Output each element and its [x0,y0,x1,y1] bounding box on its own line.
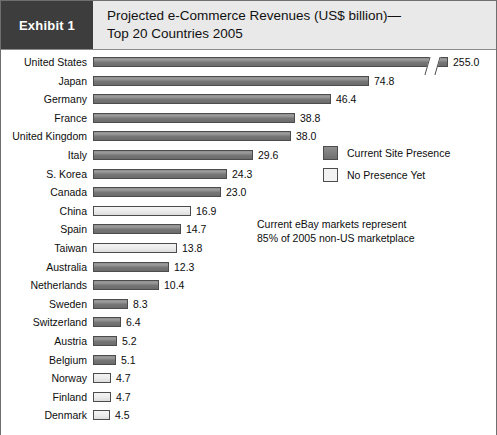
exhibit-title-line1: Projected e-Commerce Revenues (US$ billi… [107,8,401,23]
category-label: United States [1,54,87,70]
bar-value-label: 46.4 [336,91,356,107]
bar-value-label: 38.8 [300,110,320,126]
bar-light [93,392,111,402]
legend-swatch-icon [323,168,338,182]
category-label: Switzerland [1,314,87,330]
bar-dark [93,299,128,309]
bar-row: France38.8 [1,110,496,126]
bar-dark [93,262,169,272]
legend-label: No Presence Yet [347,169,425,181]
bar-value-label: 13.8 [182,240,202,256]
category-label: Belgium [1,352,87,368]
bar-dark [93,131,291,141]
category-label: France [1,110,87,126]
bar-row: Netherlands10.4 [1,277,496,293]
bar-value-label: 4.7 [116,370,131,386]
bar-value-label: 5.2 [122,333,137,349]
bar-light [93,243,177,253]
bar-row: Denmark4.5 [1,407,496,423]
bar-dark [93,224,181,234]
category-label: Austria [1,333,87,349]
bar-dark [93,94,331,104]
bar-row: Finland4.7 [1,389,496,405]
bar-value-label: 10.4 [164,277,184,293]
bar-value-label: 255.0 [453,54,479,70]
legend-label: Current Site Presence [347,147,450,159]
chart-legend: Current Site PresenceNo Presence Yet [323,142,450,186]
category-label: Germany [1,91,87,107]
bar-dark [93,355,116,365]
bar-dark [93,317,121,327]
bar-value-label: 12.3 [174,259,194,275]
bar-row: Switzerland6.4 [1,314,496,330]
bar-value-label: 8.3 [133,296,148,312]
bar-light [93,206,191,216]
category-label: Italy [1,147,87,163]
bar-value-label: 38.0 [296,128,316,144]
bar-value-label: 74.8 [374,73,394,89]
bar-dark [93,76,369,86]
category-label: Sweden [1,296,87,312]
category-label: Taiwan [1,240,87,256]
bar-dark [93,57,448,67]
exhibit-container: Exhibit 1 Projected e-Commerce Revenues … [0,0,497,435]
bar-light [93,373,111,383]
category-label: Australia [1,259,87,275]
bar-dark [93,187,221,197]
legend-item: Current Site Presence [323,142,450,164]
exhibit-header: Exhibit 1 Projected e-Commerce Revenues … [1,1,496,50]
bar-row: China16.9 [1,203,496,219]
category-label: Finland [1,389,87,405]
category-label: Canada [1,184,87,200]
bar-value-label: 6.4 [126,314,141,330]
category-label: Norway [1,370,87,386]
bar-row: Sweden8.3 [1,296,496,312]
bar-row: Norway4.7 [1,370,496,386]
exhibit-number-tag: Exhibit 1 [1,1,93,49]
annotation-line-1: Current eBay markets represent [257,217,415,231]
legend-swatch-icon [323,146,338,160]
category-label: Denmark [1,407,87,423]
bar-value-label: 4.5 [115,407,130,423]
bar-chart-plot-area: United States255.0Japan74.8Germany46.4Fr… [1,50,496,435]
bar-row: Canada23.0 [1,184,496,200]
exhibit-title-line2: Top 20 Countries 2005 [107,26,243,41]
bar-row: Austria5.2 [1,333,496,349]
bar-value-label: 4.7 [116,389,131,405]
bar-dark [93,113,295,123]
bar-row: Australia12.3 [1,259,496,275]
category-label: China [1,203,87,219]
category-label: Japan [1,73,87,89]
bar-row: Spain14.7 [1,221,496,237]
category-label: Spain [1,221,87,237]
bar-dark [93,169,227,179]
bar-row: Belgium5.1 [1,352,496,368]
bar-light [93,410,110,420]
bar-value-label: 5.1 [121,352,136,368]
legend-item: No Presence Yet [323,164,450,186]
bar-dark [93,336,117,346]
bar-value-label: 16.9 [196,203,216,219]
bar-dark [93,150,253,160]
category-label: Netherlands [1,277,87,293]
bar-row: United States255.0 [1,54,496,70]
annotation-line-2: 85% of 2005 non-US marketplace [257,231,415,245]
bar-value-label: 14.7 [186,221,206,237]
bar-row: Germany46.4 [1,91,496,107]
exhibit-title: Projected e-Commerce Revenues (US$ billi… [93,1,496,49]
bar-row: Taiwan13.8 [1,240,496,256]
category-label: S. Korea [1,166,87,182]
bar-value-label: 29.6 [258,147,278,163]
bar-value-label: 23.0 [226,184,246,200]
chart-annotation: Current eBay markets represent 85% of 20… [257,217,415,245]
category-label: United Kingdom [1,128,87,144]
bar-value-label: 24.3 [232,166,252,182]
bar-row: Japan74.8 [1,73,496,89]
bar-dark [93,280,159,290]
